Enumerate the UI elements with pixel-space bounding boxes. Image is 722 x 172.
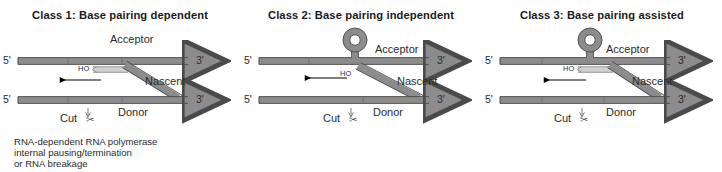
five-prime-bottom-label: 5' <box>485 94 493 105</box>
ho-label: HO <box>78 65 90 72</box>
three-prime-bottom-label: 3' <box>196 94 204 105</box>
diagram-stage: Acceptor Nascent Donor HO 5' 3' 5' 3' Cu… <box>0 28 240 138</box>
panel-title: Class 1: Base pairing dependent <box>0 9 240 21</box>
three-prime-bottom-label: 3' <box>678 94 686 105</box>
ho-label: HO <box>340 70 352 77</box>
three-prime-top-label: 3' <box>196 55 204 66</box>
rna-recombination-classes-figure: Class 1: Base pairing dependent <box>0 0 722 172</box>
five-prime-top-label: 5' <box>244 55 252 66</box>
acceptor-label: Acceptor <box>110 34 153 45</box>
diagram-stage: Acceptor Nascent Donor HO 5' 3' 5' 3' Cu… <box>482 28 722 138</box>
scissors-icon: ✂ <box>580 115 588 125</box>
cut-label: Cut <box>323 113 340 124</box>
nascent-label: Nascent <box>397 76 437 87</box>
panel-title: Class 2: Base pairing independent <box>241 9 481 21</box>
three-prime-top-label: 3' <box>437 55 445 66</box>
acceptor-label: Acceptor <box>375 44 418 55</box>
five-prime-bottom-label: 5' <box>244 94 252 105</box>
hairpin-loop <box>578 28 602 61</box>
five-prime-top-label: 5' <box>3 55 11 66</box>
acceptor-label: Acceptor <box>606 44 649 55</box>
panel-title: Class 3: Base pairing assisted <box>482 9 722 21</box>
donor-strand <box>500 97 670 104</box>
panel-caption: RNA-dependent RNA polymerase internal pa… <box>14 136 157 170</box>
scissors-icon: ✂ <box>86 115 94 125</box>
acceptor-strand <box>259 58 429 65</box>
hairpin-loop <box>343 28 367 61</box>
scissors-icon: ✂ <box>349 115 357 125</box>
panel-class-2: Class 2: Base pairing independent <box>241 0 481 172</box>
cut-label: Cut <box>60 113 77 124</box>
donor-strand <box>259 97 429 104</box>
five-prime-bottom-label: 5' <box>3 94 11 105</box>
nascent-label: Nascent <box>632 76 672 87</box>
nascent-label: Nascent <box>145 76 185 87</box>
acceptor-strand <box>18 58 188 65</box>
ho-label: HO <box>563 65 575 72</box>
five-prime-top-label: 5' <box>485 55 493 66</box>
three-prime-bottom-label: 3' <box>437 94 445 105</box>
diagram-stage: Acceptor Nascent Donor HO 5' 3' 5' 3' Cu… <box>241 28 481 138</box>
donor-label: Donor <box>373 107 403 118</box>
donor-label: Donor <box>606 107 636 118</box>
donor-label: Donor <box>118 107 148 118</box>
three-prime-top-label: 3' <box>678 55 686 66</box>
strand-diagram <box>482 28 722 138</box>
acceptor-strand <box>500 58 670 65</box>
panel-class-1: Class 1: Base pairing dependent <box>0 0 240 172</box>
donor-strand <box>18 97 188 104</box>
panel-class-3: Class 3: Base pairing assisted <box>482 0 722 172</box>
strand-diagram <box>241 28 481 138</box>
cut-label: Cut <box>554 113 571 124</box>
